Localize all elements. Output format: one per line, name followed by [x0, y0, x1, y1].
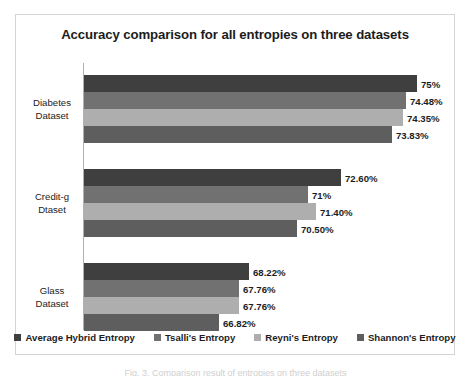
bar-group-glass: Glass Dataset 68.22% 67.76% 67.76% 66.82… [83, 263, 438, 331]
chart-container: Accuracy comparison for all entropies on… [15, 14, 455, 355]
bar-value-label: 73.83% [396, 129, 429, 140]
category-label-line-2: Dataset [21, 297, 83, 310]
bar-row: 66.82% [84, 314, 219, 331]
legend-swatch-icon [357, 334, 364, 341]
bar-value-label: 68.22% [253, 266, 286, 277]
legend-label: Shannon's Entropy [368, 332, 456, 343]
bar-value-label: 74.48% [410, 95, 443, 106]
bar-reynis-entropy-glass[interactable] [84, 297, 239, 314]
bar-average-hybrid-entropy-credit-g[interactable] [84, 169, 341, 186]
bar-row: 68.22% [84, 263, 249, 280]
figure-caption: Fig. 3. Comparison result of entropies o… [0, 368, 471, 376]
bar-tsallis-entropy-credit-g[interactable] [84, 186, 308, 203]
bar-group-diabetes: Diabetes Dataset 75% 74.48% 74.35% 73.83… [83, 75, 438, 143]
bar-row: 71.40% [84, 203, 316, 220]
bar-value-label: 71% [312, 189, 331, 200]
bar-value-label: 71.40% [320, 206, 353, 217]
bar-reynis-entropy-credit-g[interactable] [84, 203, 316, 220]
bar-value-label: 70.50% [301, 223, 334, 234]
category-label-glass: Glass Dataset [21, 285, 83, 310]
legend-swatch-icon [254, 334, 261, 341]
bar-average-hybrid-entropy-glass[interactable] [84, 263, 249, 280]
legend-item-tsallis-entropy[interactable]: Tsalli's Entropy [154, 332, 235, 343]
bar-row: 71% [84, 186, 308, 203]
legend-item-shannons-entropy[interactable]: Shannon's Entropy [357, 332, 456, 343]
bar-row: 74.35% [84, 109, 403, 126]
category-label-diabetes: Diabetes Dataset [21, 97, 83, 122]
category-label-line-1: Credit-g [21, 191, 83, 204]
bar-tsallis-entropy-diabetes[interactable] [84, 92, 406, 109]
bar-row: 67.76% [84, 297, 239, 314]
bar-value-label: 74.35% [407, 112, 440, 123]
bar-row: 70.50% [84, 220, 297, 237]
bar-average-hybrid-entropy-diabetes[interactable] [84, 75, 417, 92]
bar-shannons-entropy-glass[interactable] [84, 314, 219, 331]
category-label-line-1: Glass [21, 285, 83, 298]
bar-row: 73.83% [84, 126, 392, 143]
chart-title: Accuracy comparison for all entropies on… [16, 27, 454, 42]
legend-item-reynis-entropy[interactable]: Reyni's Entropy [254, 332, 338, 343]
bar-value-label: 66.82% [223, 317, 256, 328]
plot-area: Diabetes Dataset 75% 74.48% 74.35% 73.83… [83, 63, 438, 330]
bar-reynis-entropy-diabetes[interactable] [84, 109, 403, 126]
category-label-line-2: Dataset [21, 109, 83, 122]
legend-swatch-icon [14, 334, 21, 341]
category-label-line-1: Diabetes [21, 97, 83, 110]
legend-swatch-icon [154, 334, 161, 341]
bar-value-label: 72.60% [345, 172, 378, 183]
bar-row: 67.76% [84, 280, 239, 297]
category-label-credit-g: Credit-g Dtaset [21, 191, 83, 216]
bar-row: 75% [84, 75, 417, 92]
bar-tsallis-entropy-glass[interactable] [84, 280, 239, 297]
bar-shannons-entropy-credit-g[interactable] [84, 220, 297, 237]
chart-legend: Average Hybrid Entropy Tsalli's Entropy … [16, 332, 454, 343]
legend-item-average-hybrid-entropy[interactable]: Average Hybrid Entropy [14, 332, 134, 343]
legend-label: Average Hybrid Entropy [25, 332, 134, 343]
category-label-line-2: Dtaset [21, 203, 83, 216]
bar-group-credit-g: Credit-g Dtaset 72.60% 71% 71.40% 70.50% [83, 169, 438, 237]
legend-label: Tsalli's Entropy [165, 332, 235, 343]
bar-value-label: 67.76% [243, 283, 276, 294]
bar-value-label: 75% [421, 78, 440, 89]
bar-shannons-entropy-diabetes[interactable] [84, 126, 392, 143]
bar-row: 72.60% [84, 169, 341, 186]
legend-label: Reyni's Entropy [265, 332, 338, 343]
bar-row: 74.48% [84, 92, 406, 109]
bar-value-label: 67.76% [243, 300, 276, 311]
